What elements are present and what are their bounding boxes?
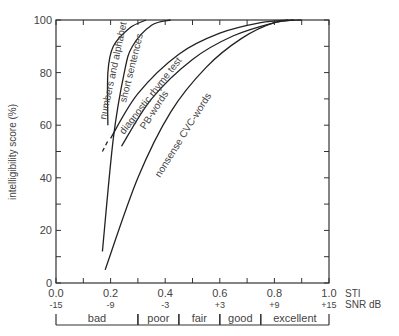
y-tick-label: 40 [40,172,52,184]
x-tick-label-sti: 0.4 [158,287,173,299]
x-tick-label-snr: -9 [107,300,115,310]
x-tick-label-snr: -15 [49,300,62,310]
x-tick-label-sti: 0.6 [212,287,227,299]
x-tick-label-sti: 0.0 [48,287,63,299]
band-label-poor: poor [147,312,169,324]
y-tick-labels: 020406080100 [34,14,52,289]
quality-bands: badpoorfairgoodexcellent [56,312,329,325]
x-tick-label-snr: +9 [269,300,279,310]
x-tick-label-sti: 0.8 [267,287,282,299]
x-tick-label-snr: +3 [215,300,225,310]
y-tick-label: 60 [40,119,52,131]
x-tick-label-snr: -3 [161,300,169,310]
y-tick-label: 100 [34,14,52,26]
band-label-bad: bad [88,312,106,324]
x-axis-label-snr: SNR dB [345,299,381,310]
band-label-fair: fair [192,312,208,324]
band-label-good: good [228,312,252,324]
x-tick-labels: 0.0-150.2-90.4-30.6+30.8+91.0+15 [48,287,336,310]
y-tick-label: 80 [40,67,52,79]
x-tick-label-sti: 0.2 [103,287,118,299]
y-tick-label: 20 [40,224,52,236]
x-tick-label-snr: +15 [321,300,336,310]
band-label-excellent: excellent [273,312,316,324]
x-tick-label-sti: 1.0 [321,287,336,299]
intelligibility-chart: 020406080100 0.0-150.2-90.4-30.6+30.8+91… [0,0,399,336]
x-axis-label-sti: STI [345,288,361,299]
y-axis-label: intelligibility score (%) [7,104,18,200]
